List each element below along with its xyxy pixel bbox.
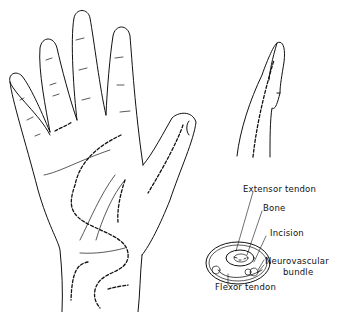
label-neurovascular: Neurovascular bbox=[265, 257, 329, 266]
label-incision: Incision bbox=[270, 229, 304, 238]
finger-side-view bbox=[237, 42, 285, 157]
palm-creases bbox=[20, 38, 130, 253]
diagram-canvas: Extensor tendon Bone Incision Neurovascu… bbox=[0, 0, 337, 312]
label-flexor-tendon: Flexor tendon bbox=[215, 283, 276, 292]
label-bundle: bundle bbox=[283, 268, 313, 277]
label-bone: Bone bbox=[263, 204, 285, 213]
label-extensor-tendon: Extensor tendon bbox=[243, 185, 316, 194]
palm-outline bbox=[10, 11, 196, 312]
